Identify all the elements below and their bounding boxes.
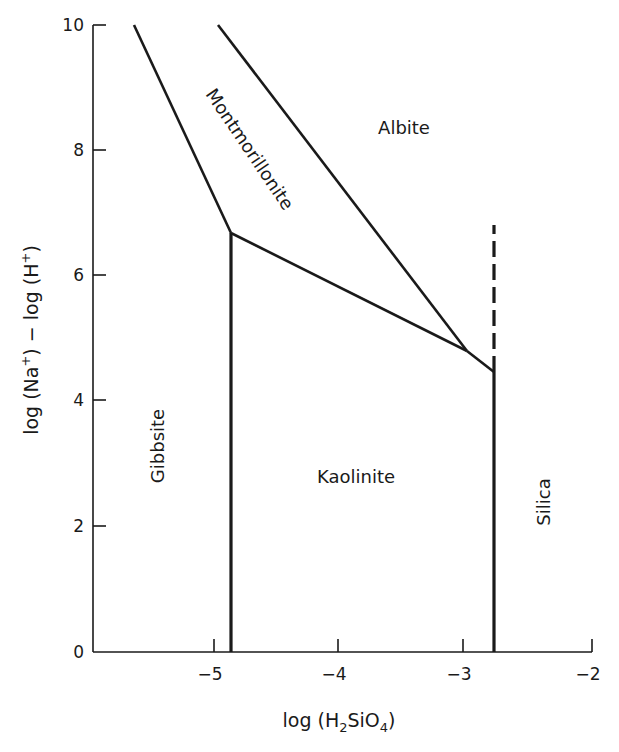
y-tick-label: 6 (73, 265, 84, 285)
region-label-albite: Albite (378, 117, 430, 138)
albite-kaolinite-boundary (467, 351, 494, 372)
x-axis-title-suffix: ) (388, 709, 395, 731)
x-tick-label: −5 (197, 664, 222, 684)
albite-montmorillonite-boundary (218, 25, 467, 351)
x-axis-title-mid: SiO (347, 709, 379, 731)
gibbsite-montmorillonite-boundary (134, 25, 231, 233)
x-axis-title-sub: 4 (380, 720, 388, 735)
y-tick-labels: 10 8 6 4 2 0 (62, 15, 84, 662)
region-label-silica: Silica (533, 478, 554, 525)
y-axis-title-part: log (Na (20, 367, 42, 435)
region-label-montmorillonite: Montmorillonite (202, 84, 299, 213)
y-tick-label: 10 (62, 15, 84, 35)
y-axis-title: log (Na+) − log (H+) (18, 245, 42, 435)
phase-boundaries (134, 25, 494, 652)
y-axis-title-sup: + (18, 253, 33, 264)
y-tick-label: 4 (73, 390, 84, 410)
y-tick-label: 0 (73, 642, 84, 662)
region-label-kaolinite: Kaolinite (317, 466, 395, 487)
y-axis-title-part: ) (20, 245, 42, 252)
x-tick-label: −4 (321, 664, 346, 684)
axes (93, 25, 592, 652)
stability-diagram: 10 8 6 4 2 0 −5 −4 −3 −2 Gibbsite Montmo… (0, 0, 619, 752)
y-tick-label: 8 (73, 140, 84, 160)
montmorillonite-kaolinite-boundary (231, 233, 467, 351)
x-axis-title-prefix: log (H (283, 709, 340, 731)
x-axis-title: log (H2SiO4) (283, 709, 396, 735)
y-axis-title-sup: + (18, 356, 33, 367)
region-label-gibbsite: Gibbsite (147, 409, 168, 483)
y-axis-title-part: ) − log (H (20, 264, 42, 356)
x-tick-label: −2 (575, 664, 600, 684)
x-tick-label: −3 (446, 664, 471, 684)
x-axis-title-sub: 2 (339, 720, 347, 735)
y-tick-label: 2 (73, 516, 84, 536)
x-tick-labels: −5 −4 −3 −2 (197, 664, 600, 684)
